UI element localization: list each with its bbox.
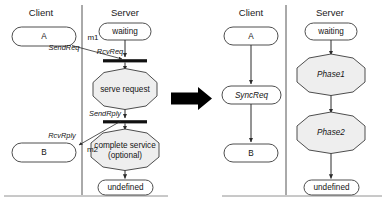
left-message-m2-label: m2 <box>87 145 99 154</box>
left-server-state-undefined-label: undefined <box>108 183 144 192</box>
left-client-state-b-label: B <box>41 148 47 157</box>
left-figure: Client Server A B waiting serve request <box>4 5 168 196</box>
right-client-state-syncreq-label: SyncReq <box>235 91 269 100</box>
left-client-state-a-label: A <box>41 32 47 41</box>
left-server-action-serve-request-label: serve request <box>100 85 150 94</box>
diagram-canvas: Client Server A B waiting serve request <box>0 0 386 208</box>
left-server-action-complete-service-label-2: (optional) <box>108 151 142 160</box>
uml-activity-diagram: Client Server A B waiting serve request <box>0 0 386 208</box>
left-edge-label-sendrply: SendRply <box>89 109 122 118</box>
left-server-action-complete-service-label-1: complete service <box>94 141 156 150</box>
left-server-action-complete-service[interactable] <box>91 129 159 171</box>
right-client-state-b-label: B <box>248 149 254 158</box>
left-sync-bar-1 <box>103 59 147 62</box>
right-lane-title-server: Server <box>316 7 344 18</box>
right-server-state-undefined-label: undefined <box>314 183 350 192</box>
right-server-action-phase1-label: Phase1 <box>317 70 345 79</box>
right-lane-title-client: Client <box>239 7 264 18</box>
big-right-arrow-icon <box>171 87 212 110</box>
left-edge-label-sendreq: SendReq <box>49 43 81 52</box>
right-figure: Client Server A SyncReq B waiting Phase1 <box>222 5 382 196</box>
left-edge-label-rcvreq: RcvReq <box>97 47 124 56</box>
left-sync-bar-2 <box>103 120 147 123</box>
right-client-state-a-label: A <box>248 32 254 41</box>
left-message-m1-label: m1 <box>87 33 99 42</box>
left-lane-title-client: Client <box>29 7 54 18</box>
transform-arrow <box>171 87 212 110</box>
right-server-state-waiting-label: waiting <box>317 27 344 36</box>
left-server-state-waiting-label: waiting <box>111 27 138 36</box>
left-edge-label-rcvrply: RcvRply <box>48 131 77 140</box>
right-server-action-phase2-label: Phase2 <box>317 128 345 137</box>
left-lane-title-server: Server <box>111 7 139 18</box>
